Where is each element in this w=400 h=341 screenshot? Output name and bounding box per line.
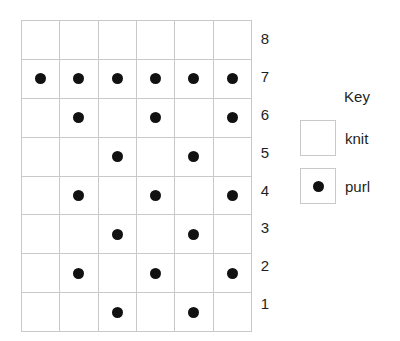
chart-cell-knit[interactable] <box>22 98 60 137</box>
chart-cell-knit[interactable] <box>213 137 251 176</box>
chart-cell-purl[interactable] <box>175 293 213 332</box>
chart-cell-knit[interactable] <box>136 215 174 254</box>
chart-cell-purl[interactable] <box>175 215 213 254</box>
purl-dot-icon <box>188 151 199 162</box>
chart-cell-purl[interactable] <box>98 137 136 176</box>
chart-table-body <box>22 21 252 332</box>
purl-dot-icon <box>227 268 238 279</box>
purl-dot-icon <box>227 112 238 123</box>
purl-dot-icon <box>73 268 84 279</box>
row-number-label: 4 <box>252 172 278 210</box>
chart-row <box>22 176 252 215</box>
chart-cell-knit[interactable] <box>22 21 60 60</box>
purl-dot-icon <box>112 229 123 240</box>
chart-cell-knit[interactable] <box>213 21 251 60</box>
purl-dot-icon <box>150 112 161 123</box>
chart-table <box>21 20 252 332</box>
chart-row <box>22 293 252 332</box>
chart-cell-knit[interactable] <box>175 98 213 137</box>
key-title: Key <box>300 88 396 105</box>
chart-cell-purl[interactable] <box>98 215 136 254</box>
key-swatch-purl <box>300 168 336 204</box>
purl-dot-icon <box>35 73 46 84</box>
row-number-label: 6 <box>252 96 278 134</box>
chart-cell-knit[interactable] <box>60 21 98 60</box>
row-number-label: 1 <box>252 285 278 323</box>
chart-row <box>22 21 252 60</box>
row-number-label: 7 <box>252 58 278 96</box>
purl-dot-icon <box>112 151 123 162</box>
chart-cell-knit[interactable] <box>213 215 251 254</box>
chart-cell-knit[interactable] <box>98 176 136 215</box>
chart-cell-knit[interactable] <box>22 254 60 293</box>
chart-cell-knit[interactable] <box>136 137 174 176</box>
chart-cell-purl[interactable] <box>175 137 213 176</box>
chart-cell-knit[interactable] <box>175 254 213 293</box>
chart-row <box>22 59 252 98</box>
chart-cell-knit[interactable] <box>60 215 98 254</box>
chart-cell-knit[interactable] <box>175 21 213 60</box>
row-number-label: 8 <box>252 20 278 58</box>
purl-dot-icon <box>112 73 123 84</box>
purl-dot-icon <box>188 73 199 84</box>
purl-dot-icon <box>150 73 161 84</box>
chart-cell-purl[interactable] <box>60 254 98 293</box>
chart-cell-purl[interactable] <box>136 59 174 98</box>
chart-cell-knit[interactable] <box>22 293 60 332</box>
row-number-column: 87654321 <box>252 20 278 323</box>
purl-dot-icon <box>227 73 238 84</box>
chart-cell-purl[interactable] <box>98 293 136 332</box>
key-item-knit: knit <box>300 120 396 156</box>
chart-cell-purl[interactable] <box>60 176 98 215</box>
chart-cell-purl[interactable] <box>98 59 136 98</box>
chart-cell-knit[interactable] <box>98 98 136 137</box>
chart-cell-purl[interactable] <box>213 98 251 137</box>
key-item-purl: purl <box>300 168 396 204</box>
chart-cell-purl[interactable] <box>136 98 174 137</box>
chart-cell-knit[interactable] <box>98 254 136 293</box>
knitting-chart-grid <box>21 20 245 323</box>
chart-cell-purl[interactable] <box>175 59 213 98</box>
purl-dot-icon <box>150 268 161 279</box>
row-number-label: 5 <box>252 134 278 172</box>
purl-dot-icon <box>188 229 199 240</box>
chart-cell-knit[interactable] <box>60 137 98 176</box>
chart-cell-knit[interactable] <box>136 21 174 60</box>
purl-dot-icon <box>227 190 238 201</box>
chart-cell-knit[interactable] <box>22 137 60 176</box>
chart-cell-knit[interactable] <box>98 21 136 60</box>
chart-cell-knit[interactable] <box>136 293 174 332</box>
chart-cell-knit[interactable] <box>22 215 60 254</box>
purl-dot-icon <box>73 190 84 201</box>
chart-cell-knit[interactable] <box>60 293 98 332</box>
chart-cell-purl[interactable] <box>136 254 174 293</box>
purl-dot-icon <box>112 307 123 318</box>
chart-cell-purl[interactable] <box>213 254 251 293</box>
row-number-label: 2 <box>252 247 278 285</box>
chart-cell-purl[interactable] <box>213 59 251 98</box>
chart-row <box>22 215 252 254</box>
purl-dot-icon <box>188 307 199 318</box>
chart-row <box>22 98 252 137</box>
purl-dot-icon <box>150 190 161 201</box>
chart-cell-knit[interactable] <box>213 293 251 332</box>
key-label-knit: knit <box>345 130 368 147</box>
chart-cell-purl[interactable] <box>136 176 174 215</box>
chart-cell-purl[interactable] <box>60 98 98 137</box>
chart-cell-knit[interactable] <box>22 176 60 215</box>
chart-row <box>22 137 252 176</box>
chart-cell-knit[interactable] <box>175 176 213 215</box>
key-swatch-knit <box>300 120 336 156</box>
purl-dot-icon <box>73 73 84 84</box>
row-number-label: 3 <box>252 209 278 247</box>
key-legend-panel: Key knitpurl <box>300 88 396 216</box>
key-label-purl: purl <box>345 178 370 195</box>
key-items-list: knitpurl <box>300 120 396 204</box>
purl-dot-icon <box>73 112 84 123</box>
chart-cell-purl[interactable] <box>22 59 60 98</box>
chart-row <box>22 254 252 293</box>
chart-cell-purl[interactable] <box>213 176 251 215</box>
purl-dot-icon <box>313 181 324 192</box>
chart-cell-purl[interactable] <box>60 59 98 98</box>
